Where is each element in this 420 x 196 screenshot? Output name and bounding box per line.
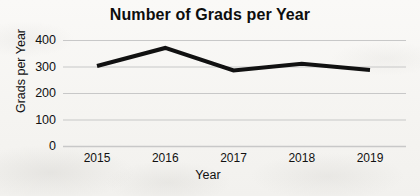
y-axis-tick-label: 100 <box>22 114 56 127</box>
x-axis-tick-label: 2018 <box>272 152 332 164</box>
gridlines <box>63 41 406 147</box>
x-axis-tick-label: 2019 <box>340 152 400 164</box>
y-axis-tick-label: 400 <box>22 34 56 47</box>
y-axis-tick-label: 0 <box>22 140 56 153</box>
y-axis-tick-label: 300 <box>22 61 56 74</box>
line-chart: Number of Grads per Year Grads per Year … <box>0 0 420 196</box>
y-axis-tick-label: 200 <box>22 87 56 100</box>
plot-area <box>0 0 420 196</box>
x-axis-tick-label: 2015 <box>67 152 127 164</box>
x-axis-tick-label: 2017 <box>204 152 264 164</box>
x-axis-tick-label: 2016 <box>135 152 195 164</box>
